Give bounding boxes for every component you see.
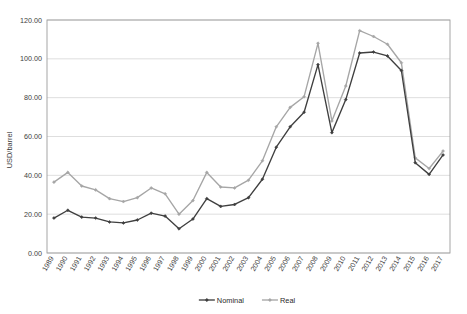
x-tick-label: 1993	[95, 255, 111, 273]
x-tick-label: 1991	[68, 255, 84, 273]
x-tick-label: 1999	[179, 255, 195, 273]
x-tick-label: 1996	[137, 255, 153, 273]
y-tick-label: 0.00	[28, 249, 42, 258]
data-point-marker	[122, 221, 125, 224]
x-tick-label: 2017	[429, 255, 445, 273]
x-tick-label: 2008	[304, 255, 320, 273]
y-axis-tick-labels: 0.0020.0040.0060.0080.00100.00120.00	[20, 16, 42, 258]
x-tick-label: 2012	[360, 255, 376, 273]
x-tick-label: 2003	[234, 255, 250, 273]
gridlines-group	[47, 20, 450, 253]
y-tick-label: 120.00	[20, 16, 42, 25]
legend-marker-real	[268, 298, 272, 302]
x-tick-label: 2009	[318, 255, 334, 273]
x-tick-label: 2006	[276, 255, 292, 273]
legend-label-nominal: Nominal	[217, 296, 244, 305]
data-point-marker	[358, 51, 361, 54]
x-tick-label: 2004	[248, 255, 264, 273]
series-line-nominal	[54, 52, 443, 229]
x-tick-label: 2013	[373, 255, 389, 273]
series-line-real	[54, 31, 443, 214]
y-tick-label: 60.00	[24, 132, 42, 141]
x-tick-label: 1998	[165, 255, 181, 273]
x-tick-label: 2005	[262, 255, 278, 273]
x-tick-label: 2011	[346, 255, 362, 273]
y-tick-label: 20.00	[24, 210, 42, 219]
legend-label-real: Real	[280, 296, 296, 305]
chart-container: 0.0020.0040.0060.0080.00100.00120.00 198…	[0, 0, 467, 314]
x-tick-label: 1990	[54, 255, 70, 273]
data-point-marker	[108, 220, 111, 223]
legend-marker-nominal	[205, 298, 209, 302]
y-axis-title: USD/barrel	[5, 131, 14, 168]
x-tick-label: 1992	[82, 255, 98, 273]
data-point-marker	[316, 63, 319, 66]
y-tick-label: 80.00	[24, 93, 42, 102]
data-point-marker	[316, 42, 319, 45]
data-series-group	[52, 29, 444, 230]
y-tick-label: 40.00	[24, 171, 42, 180]
x-tick-label: 2002	[221, 255, 237, 273]
x-tick-label: 2016	[415, 255, 431, 273]
x-tick-label: 1989	[40, 255, 56, 273]
x-tick-label: 1995	[123, 255, 139, 273]
y-tick-label: 100.00	[20, 54, 42, 63]
x-tick-label: 2007	[290, 255, 306, 273]
x-tick-label: 2015	[401, 255, 417, 273]
line-chart: 0.0020.0040.0060.0080.00100.00120.00 198…	[0, 0, 467, 314]
data-point-marker	[122, 200, 125, 203]
chart-legend: NominalReal	[199, 296, 296, 305]
x-tick-label: 2001	[207, 255, 223, 273]
x-tick-label: 2010	[332, 255, 348, 273]
x-tick-label: 1994	[109, 255, 125, 273]
x-tick-label: 2014	[387, 255, 403, 273]
x-tick-label: 2000	[193, 255, 209, 273]
data-point-marker	[94, 217, 97, 220]
x-axis-tick-labels: 1989199019911992199319941995199619971998…	[40, 255, 445, 273]
data-point-marker	[372, 50, 375, 53]
x-tick-label: 1997	[151, 255, 167, 273]
y-axis-title-text: USD/barrel	[5, 131, 14, 168]
